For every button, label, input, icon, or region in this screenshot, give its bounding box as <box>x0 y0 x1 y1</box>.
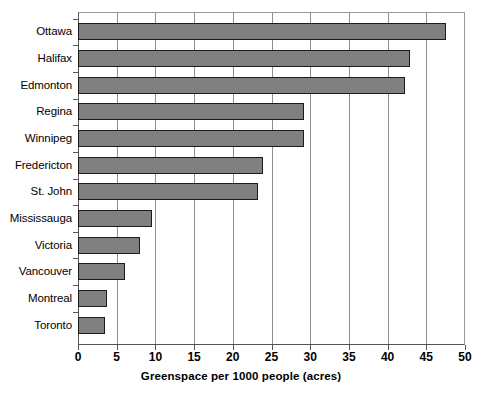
x-tick-label: 35 <box>342 350 355 364</box>
category-label: St. John <box>0 185 72 198</box>
category-label: Mississauga <box>0 212 72 225</box>
bar <box>78 290 107 307</box>
y-tick <box>73 285 78 286</box>
x-tick-label: 50 <box>458 350 471 364</box>
bar <box>78 183 258 200</box>
category-label: Edmonton <box>0 79 72 92</box>
bar <box>78 317 105 334</box>
x-tick-label: 10 <box>149 350 162 364</box>
bar-chart: OttawaHalifaxEdmontonReginaWinnipegFrede… <box>0 0 482 394</box>
x-tick-label: 5 <box>113 350 120 364</box>
x-tick-label: 25 <box>265 350 278 364</box>
bar <box>78 157 263 174</box>
bar <box>78 237 140 254</box>
bar <box>78 103 304 120</box>
category-label: Ottawa <box>0 25 72 38</box>
y-tick <box>73 258 78 259</box>
bar <box>78 210 152 227</box>
y-tick <box>73 72 78 73</box>
category-label: Montreal <box>0 292 72 305</box>
y-tick <box>73 205 78 206</box>
category-label: Winnipeg <box>0 132 72 145</box>
y-tick <box>73 125 78 126</box>
x-axis-title: Greenspace per 1000 people (acres) <box>0 370 482 382</box>
x-tick-label: 20 <box>226 350 239 364</box>
x-tick-label: 45 <box>420 350 433 364</box>
x-tick-label: 15 <box>187 350 200 364</box>
y-tick <box>73 179 78 180</box>
bar <box>78 50 410 67</box>
y-tick <box>73 232 78 233</box>
y-tick <box>73 99 78 100</box>
category-label: Vancouver <box>0 265 72 278</box>
x-tick-label: 40 <box>381 350 394 364</box>
category-label: Halifax <box>0 52 72 65</box>
bar <box>78 130 304 147</box>
category-label: Fredericton <box>0 159 72 172</box>
category-label: Regina <box>0 105 72 118</box>
bar <box>78 77 405 94</box>
bars-group <box>78 12 465 345</box>
y-tick <box>73 152 78 153</box>
x-tick-label: 30 <box>304 350 317 364</box>
bar <box>78 263 125 280</box>
category-label: Victoria <box>0 239 72 252</box>
y-tick <box>73 45 78 46</box>
category-axis-labels: OttawaHalifaxEdmontonReginaWinnipegFrede… <box>0 12 72 345</box>
category-label: Toronto <box>0 319 72 332</box>
x-tick-label: 0 <box>75 350 82 364</box>
bar <box>78 23 446 40</box>
y-tick <box>73 312 78 313</box>
y-tick <box>73 19 78 20</box>
